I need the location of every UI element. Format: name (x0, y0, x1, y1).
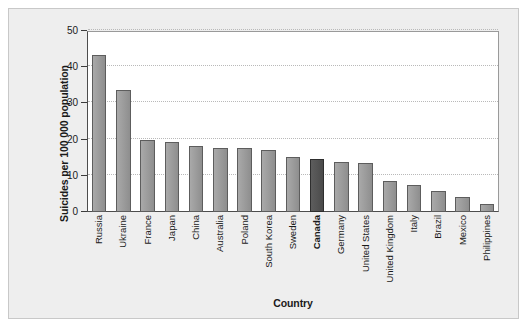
bar-south-korea (261, 150, 276, 212)
bar-china (189, 146, 204, 212)
x-tick-label-russia: Russia (94, 215, 104, 244)
x-label-slot: Russia (87, 215, 111, 293)
y-tick-label-30: 30 (67, 98, 78, 108)
x-tick-label-philippines: Philippines (482, 215, 492, 261)
x-tick-label-mexico: Mexico (458, 215, 468, 245)
y-tick-label-20: 20 (67, 135, 78, 145)
gridline-50 (88, 29, 498, 30)
y-tick-label-10: 10 (67, 171, 78, 181)
bar-australia (213, 148, 228, 212)
x-label-slot: South Korea (257, 215, 281, 293)
x-label-slot: France (135, 215, 159, 293)
x-axis-tick-labels: RussiaUkraineFranceJapanChinaAustraliaPo… (87, 215, 499, 293)
x-label-slot: China (184, 215, 208, 293)
bar-japan (165, 142, 180, 212)
y-tick-label-50: 50 (67, 26, 78, 36)
bar-canada (310, 159, 325, 212)
x-tick-label-sweden: Sweden (288, 215, 298, 249)
bar-russia (92, 55, 107, 212)
x-tick-label-canada: Canada (312, 215, 322, 249)
chart-figure-panel: Suicides per 100 000 population 01020304… (8, 8, 519, 319)
x-label-slot: Mexico (451, 215, 475, 293)
x-tick-label-germany: Germany (336, 215, 346, 254)
x-tick-label-brazil: Brazil (433, 215, 443, 239)
bar-united-states (358, 163, 373, 212)
bar-mexico (455, 197, 470, 212)
bar-poland (237, 148, 252, 212)
y-axis-ticks: 01020304050 (61, 31, 87, 212)
x-tick-label-united-kingdom: United Kingdom (385, 215, 395, 283)
x-tick-label-china: China (191, 215, 201, 240)
x-label-slot: Philippines (475, 215, 499, 293)
x-label-slot: Sweden (281, 215, 305, 293)
y-tick-label-40: 40 (67, 62, 78, 72)
x-axis-title: Country (87, 297, 499, 309)
x-tick-label-ukraine: Ukraine (118, 215, 128, 248)
x-tick-label-japan: Japan (167, 215, 177, 241)
x-label-slot: United States (354, 215, 378, 293)
bar-sweden (286, 157, 301, 212)
x-label-slot: Canada (305, 215, 329, 293)
bar-brazil (431, 191, 446, 212)
bar-ukraine (116, 90, 131, 212)
bar-philippines (480, 204, 495, 212)
x-tick-label-italy: Italy (409, 215, 419, 232)
x-label-slot: Ukraine (111, 215, 135, 293)
y-axis-title-container: Suicides per 100 000 population (33, 31, 51, 212)
x-label-slot: Japan (160, 215, 184, 293)
x-tick-label-australia: Australia (215, 215, 225, 252)
x-label-slot: Germany (329, 215, 353, 293)
x-label-slot: Italy (402, 215, 426, 293)
bar-united-kingdom (383, 181, 398, 212)
x-tick-label-poland: Poland (240, 215, 250, 245)
y-tick-label-0: 0 (72, 207, 78, 217)
bar-italy (407, 185, 422, 213)
x-label-slot: United Kingdom (378, 215, 402, 293)
x-label-slot: Australia (208, 215, 232, 293)
bar-series (87, 31, 499, 212)
bar-germany (334, 162, 349, 212)
x-label-slot: Brazil (426, 215, 450, 293)
x-tick-label-south-korea: South Korea (264, 215, 274, 268)
x-tick-label-france: France (143, 215, 153, 245)
x-tick-label-united-states: United States (361, 215, 371, 272)
bar-france (140, 140, 155, 212)
x-label-slot: Poland (232, 215, 256, 293)
